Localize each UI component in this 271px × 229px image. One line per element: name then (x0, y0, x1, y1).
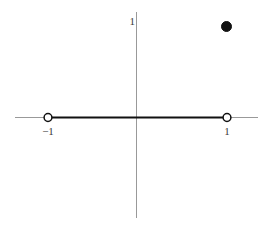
x-axis-tick-label-one: 1 (219, 126, 235, 137)
y-axis-tick-label-one: 1 (125, 16, 135, 27)
filled-point-marker (222, 22, 232, 32)
graph-figure: 1 −1 1 (0, 0, 271, 229)
open-endpoint-left-marker (44, 114, 52, 122)
x-axis-tick-label-negative-one: −1 (38, 126, 58, 137)
coordinate-plane-plot (0, 0, 271, 229)
open-endpoint-right-marker (223, 114, 231, 122)
